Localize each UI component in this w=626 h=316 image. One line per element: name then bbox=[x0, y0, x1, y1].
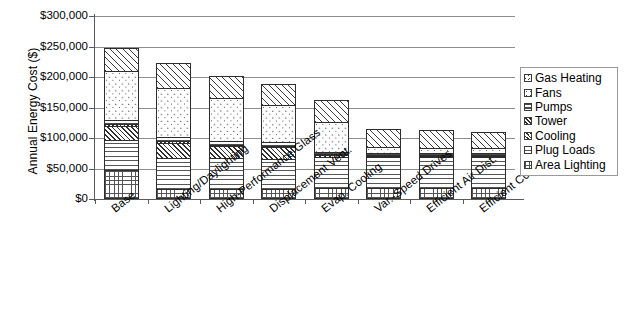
y-tick-mark bbox=[89, 16, 95, 17]
legend-label: Cooling bbox=[535, 130, 576, 142]
bar-stack[interactable] bbox=[104, 49, 139, 199]
gridline bbox=[95, 47, 515, 48]
legend-swatch-icon bbox=[524, 103, 532, 111]
y-tick-label: $150,000 bbox=[4, 102, 88, 113]
legend-swatch-icon bbox=[524, 117, 532, 125]
y-tick-label: $250,000 bbox=[4, 41, 88, 52]
y-tick-label: $200,000 bbox=[4, 71, 88, 82]
legend-item[interactable]: Gas Heating bbox=[524, 71, 614, 85]
x-tick-mark bbox=[410, 199, 411, 204]
legend-item[interactable]: Fans bbox=[524, 85, 614, 99]
bar-segment[interactable] bbox=[209, 76, 244, 99]
y-tick-mark bbox=[89, 138, 95, 139]
x-tick-mark bbox=[148, 199, 149, 204]
bar-segment[interactable] bbox=[156, 88, 191, 138]
legend-swatch-icon bbox=[524, 132, 532, 140]
bar-segment[interactable] bbox=[156, 143, 191, 159]
y-tick-mark bbox=[89, 169, 95, 170]
legend-item[interactable]: Tower bbox=[524, 114, 614, 128]
energy-cost-stacked-bar-chart: Annual Energy Cost ($) $0$50,000$100,000… bbox=[0, 0, 626, 316]
bar-segment[interactable] bbox=[261, 84, 296, 105]
legend-label: Fans bbox=[535, 87, 562, 99]
bar-stack[interactable] bbox=[156, 64, 191, 199]
legend-swatch-icon bbox=[524, 89, 532, 97]
y-tick-label: $100,000 bbox=[4, 132, 88, 143]
bar-segment[interactable] bbox=[209, 98, 244, 142]
bar-segment[interactable] bbox=[156, 63, 191, 89]
legend-item[interactable]: Cooling bbox=[524, 129, 614, 143]
bar-segment[interactable] bbox=[104, 48, 139, 72]
y-tick-mark bbox=[89, 108, 95, 109]
x-tick-mark bbox=[253, 199, 254, 204]
y-tick-label: $300,000 bbox=[4, 10, 88, 21]
y-tick-mark bbox=[89, 77, 95, 78]
x-tick-mark bbox=[305, 199, 306, 204]
legend-label: Tower bbox=[535, 115, 567, 127]
x-tick-mark bbox=[95, 199, 96, 204]
y-tick-label: $0 bbox=[4, 193, 88, 204]
legend-item[interactable]: Plug Loads bbox=[524, 143, 614, 157]
bar-segment[interactable] bbox=[261, 105, 296, 143]
bar-segment[interactable] bbox=[366, 129, 401, 149]
bar-segment[interactable] bbox=[104, 71, 139, 121]
legend-item[interactable]: Pumps bbox=[524, 100, 614, 114]
bar-segment[interactable] bbox=[314, 100, 349, 123]
legend-item[interactable]: Area Lighting bbox=[524, 157, 614, 171]
legend-label: Gas Heating bbox=[535, 72, 602, 84]
legend-swatch-icon bbox=[524, 146, 532, 154]
x-tick-mark bbox=[200, 199, 201, 204]
bar-segment[interactable] bbox=[471, 132, 506, 150]
x-tick-mark bbox=[463, 199, 464, 204]
legend-label: Pumps bbox=[535, 101, 572, 113]
x-tick-mark bbox=[358, 199, 359, 204]
bar-stack[interactable] bbox=[209, 77, 244, 199]
bar-segment[interactable] bbox=[104, 126, 139, 141]
legend-swatch-icon bbox=[524, 74, 532, 82]
legend-label: Area Lighting bbox=[535, 159, 606, 171]
bar-segment[interactable] bbox=[419, 130, 454, 149]
plot-area bbox=[95, 16, 515, 199]
y-axis-tick-labels: $0$50,000$100,000$150,000$200,000$250,00… bbox=[0, 0, 88, 316]
legend-swatch-icon bbox=[524, 161, 532, 169]
chart-legend: Gas HeatingFansPumpsTowerCoolingPlug Loa… bbox=[520, 67, 618, 176]
x-axis-line bbox=[95, 199, 524, 200]
gridline bbox=[95, 16, 515, 17]
bar-segment[interactable] bbox=[104, 140, 139, 172]
y-tick-label: $50,000 bbox=[4, 163, 88, 174]
legend-label: Plug Loads bbox=[535, 144, 595, 156]
bar-stack[interactable] bbox=[261, 85, 296, 199]
y-tick-mark bbox=[89, 47, 95, 48]
